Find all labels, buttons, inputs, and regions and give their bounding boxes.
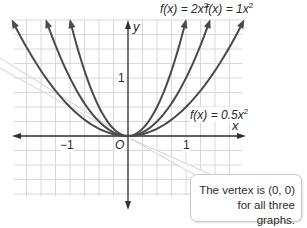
callout-line-1: The vertex is (0, 0) [197, 183, 295, 198]
callout-pointer [131, 139, 214, 176]
x-axis-label: x [232, 118, 239, 133]
origin-label: O [115, 138, 124, 152]
label-f-1x2: f(x) = 1x2 [205, 1, 253, 16]
label-f-2x2-text: f(x) = 2x [160, 2, 204, 16]
x-tick-neg1: −1 [60, 138, 74, 152]
label-f-1x2-text: f(x) = 1x [205, 2, 249, 16]
label-f-05x2: f(x) = 0.5x2 [190, 107, 248, 122]
y-tick-1: 1 [118, 71, 125, 85]
x-tick-1: 1 [183, 138, 190, 152]
vertex-callout: The vertex is (0, 0) for all three graph… [190, 174, 302, 222]
y-axis-label: y [133, 19, 140, 34]
label-f-2x2: f(x) = 2x2 [160, 1, 208, 16]
callout-line-2: for all three graphs. [197, 198, 295, 228]
